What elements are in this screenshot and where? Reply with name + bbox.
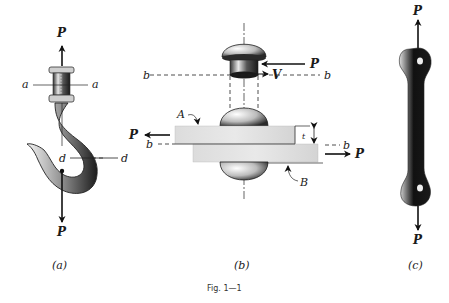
panel-caption-b: (b) bbox=[234, 259, 250, 272]
load-label-top-c: P bbox=[412, 4, 423, 18]
plate-b-leader bbox=[288, 166, 298, 181]
panel-c-eyebar: P P (c) bbox=[399, 4, 431, 272]
rivet-head-top bbox=[220, 108, 268, 126]
rivet-head-bottom bbox=[220, 162, 268, 180]
load-label-top-a: P bbox=[56, 26, 67, 40]
force-label-left-b: P bbox=[128, 128, 139, 142]
eyebar-hole-bottom bbox=[417, 185, 423, 192]
shear-label-v: V bbox=[272, 68, 283, 82]
panel-caption-a: (a) bbox=[52, 259, 67, 272]
figure-caption: Fig. 1—1 bbox=[207, 284, 242, 293]
plane-label-b-mid-right: b bbox=[343, 139, 350, 152]
eyebar-body bbox=[399, 48, 431, 206]
panel-caption-c: (c) bbox=[408, 259, 423, 272]
plate-b bbox=[193, 144, 318, 162]
plate-label-a: A bbox=[176, 108, 185, 121]
thickness-label: t bbox=[302, 132, 306, 141]
force-label-top-b: P bbox=[309, 57, 320, 71]
plate-a bbox=[175, 126, 295, 144]
plane-label-b-top-left: b bbox=[143, 69, 150, 82]
load-label-bottom-a: P bbox=[56, 225, 67, 239]
panel-b-rivet-joint: P b b V t b b P P A B ( bbox=[128, 23, 365, 272]
load-label-bottom-c: P bbox=[412, 233, 423, 247]
plane-label-b-mid-left: b bbox=[146, 138, 153, 151]
plate-a-leader bbox=[188, 115, 198, 124]
section-label-d-left: d bbox=[59, 152, 66, 165]
figure-canvas: P a a d d P (a) bbox=[0, 0, 449, 303]
plane-label-b-top-right: b bbox=[324, 69, 331, 82]
hook-shank-nut bbox=[49, 67, 74, 102]
plate-label-b: B bbox=[299, 176, 308, 189]
force-label-right-b: P bbox=[354, 147, 365, 161]
section-label-a-left: a bbox=[22, 78, 29, 91]
section-label-a-right: a bbox=[92, 78, 99, 91]
section-label-d-right: d bbox=[121, 152, 128, 165]
panel-a-hook: P a a d d P (a) bbox=[22, 26, 128, 272]
rivet-upper bbox=[222, 44, 266, 78]
eyebar-hole-top bbox=[417, 58, 423, 65]
